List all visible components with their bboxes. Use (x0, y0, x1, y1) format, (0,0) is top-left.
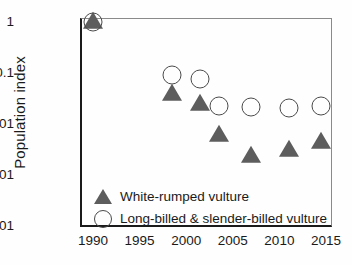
open-circle-marker (279, 98, 298, 117)
x-tick-label: 2010 (256, 234, 302, 248)
chart-legend: White-rumped vultureLong-billed & slende… (88, 186, 326, 230)
y-tick-label: 0.01 (0, 117, 14, 131)
data-point-filled-triangle (209, 125, 229, 142)
open-circle-marker (84, 13, 103, 32)
data-point-open-circle (312, 96, 331, 115)
y-tick-label: 1 (6, 15, 14, 29)
data-point-open-circle (163, 66, 182, 85)
data-point-open-circle (191, 70, 210, 89)
open-circle-marker (163, 66, 182, 85)
legend-marker-open-circle-icon (88, 210, 118, 228)
data-point-filled-triangle (241, 145, 261, 162)
data-point-filled-triangle (190, 94, 210, 111)
data-point-open-circle (84, 13, 103, 32)
x-tick-label: 2015 (303, 234, 349, 248)
filled-triangle-marker (311, 132, 331, 149)
filled-triangle-icon (94, 189, 112, 204)
data-point-open-circle (242, 97, 261, 116)
y-axis-title: Population index (11, 38, 28, 188)
filled-triangle-marker (279, 140, 299, 157)
y-tick-label: 0.1 (0, 66, 14, 80)
data-point-filled-triangle (162, 84, 182, 101)
data-point-open-circle (279, 98, 298, 117)
legend-label: Long-billed & slender-billed vulture (118, 211, 327, 226)
open-circle-marker (191, 70, 210, 89)
y-tick-label: 0.0001 (0, 219, 14, 233)
open-circle-marker (242, 97, 261, 116)
legend-item: Long-billed & slender-billed vulture (88, 208, 326, 229)
data-point-open-circle (209, 96, 228, 115)
data-point-filled-triangle (279, 140, 299, 157)
data-point-filled-triangle (311, 132, 331, 149)
x-tick-label: 2005 (210, 234, 256, 248)
open-circle-marker (312, 96, 331, 115)
filled-triangle-marker (209, 125, 229, 142)
filled-triangle-marker (241, 145, 261, 162)
x-tick-label: 1990 (70, 234, 116, 248)
open-circle-icon (94, 210, 112, 228)
open-circle-marker (209, 96, 228, 115)
legend-label: White-rumped vulture (118, 189, 249, 204)
filled-triangle-marker (162, 84, 182, 101)
x-tick-label: 2000 (163, 234, 209, 248)
legend-item: White-rumped vulture (88, 186, 326, 207)
x-tick-label: 1995 (117, 234, 163, 248)
filled-triangle-marker (190, 94, 210, 111)
population-index-chart: Population index 10.10.010.0010.0001 199… (0, 0, 352, 265)
y-tick-label: 0.001 (0, 168, 14, 182)
legend-marker-filled-triangle-icon (88, 189, 118, 204)
